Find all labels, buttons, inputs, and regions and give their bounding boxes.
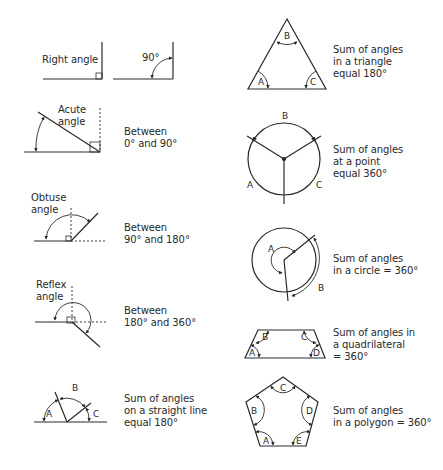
triangle-description: Sum of angles in a triangle equal 180°: [333, 44, 403, 80]
right-angle-label: Right angle: [42, 54, 98, 66]
obtuse-angle-description: Between 90° and 180°: [124, 222, 190, 246]
angle-letter: B: [251, 406, 257, 416]
angle-letter: B: [282, 111, 288, 121]
angle-letter: B: [72, 383, 78, 393]
reflex-angle-label: Reflex angle: [36, 279, 66, 303]
angle-letter: A: [263, 436, 270, 446]
straight-line-description: Sum of angles on a straight line equal 1…: [124, 393, 207, 429]
angle-letter: C: [310, 77, 316, 87]
point-figure: [247, 123, 321, 204]
angle-letter: B: [284, 31, 290, 41]
angle-letter: C: [316, 180, 322, 190]
angle-letter: B: [318, 283, 324, 293]
angle-letter: E: [296, 436, 302, 446]
angle-letter: B: [262, 332, 268, 342]
acute-angle-label: Acute angle: [58, 104, 86, 128]
acute-angle-description: Between 0° and 90°: [124, 126, 177, 150]
circle-description: Sum of angles in a circle = 360°: [333, 253, 418, 277]
reflex-angle-description: Between 180° and 360°: [124, 305, 196, 329]
obtuse-angle-label: Obtuse angle: [31, 192, 66, 216]
angle-letter: C: [280, 383, 286, 393]
angle-letter: C: [93, 409, 99, 419]
angle-letter: A: [247, 180, 254, 190]
angle-letter: D: [306, 406, 313, 416]
angle-letter: D: [313, 348, 320, 358]
angle-letter: A: [258, 77, 265, 87]
point-description: Sum of angles at a point equal 360°: [333, 144, 403, 180]
angle-letter: A: [268, 244, 275, 254]
quadrilateral-description: Sum of angles in a quadrilateral = 360°: [333, 327, 415, 363]
polygon-description: Sum of angles in a polygon = 360°: [333, 405, 432, 429]
angle-letter: C: [301, 332, 307, 342]
angle-letter: A: [46, 409, 53, 419]
angle-letter: A: [249, 348, 256, 358]
ninety-degree-label: 90°: [142, 52, 159, 64]
circle-figure: [252, 228, 319, 301]
